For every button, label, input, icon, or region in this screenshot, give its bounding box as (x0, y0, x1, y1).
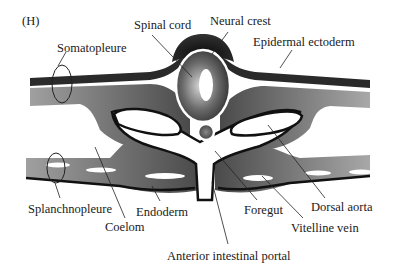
label-vitelline-vein: Vitelline vein (291, 222, 359, 235)
leader-line-epidermal-ectoderm (280, 50, 292, 68)
label-dorsal-aorta: Dorsal aorta (311, 201, 372, 214)
label-spinal-cord: Spinal cord (134, 19, 191, 32)
vessel (46, 163, 70, 168)
leader-line (55, 183, 60, 198)
label-somatopleure: Somatopleure (57, 42, 126, 55)
label-coelom: Coelom (105, 221, 145, 234)
neural-canal (199, 69, 213, 101)
vessel (86, 168, 116, 173)
vessel (305, 171, 331, 176)
label-splanchnopleure: Splanchnopleure (28, 203, 112, 216)
panel-label: (H) (22, 15, 39, 28)
vessel (145, 173, 185, 179)
label-foregut: Foregut (244, 204, 283, 217)
embryo-cross-section-diagram: (H) Spinal cord Neural crest Epidermal e… (0, 0, 401, 274)
label-endoderm: Endoderm (136, 206, 188, 219)
vessel (349, 170, 373, 175)
label-anterior-intestinal-portal: Anterior intestinal portal (167, 250, 291, 263)
label-epidermal-ectoderm: Epidermal ectoderm (253, 36, 355, 49)
notochord (198, 124, 214, 140)
vitelline-vein-vessel (243, 175, 273, 181)
label-neural-crest: Neural crest (210, 15, 271, 28)
